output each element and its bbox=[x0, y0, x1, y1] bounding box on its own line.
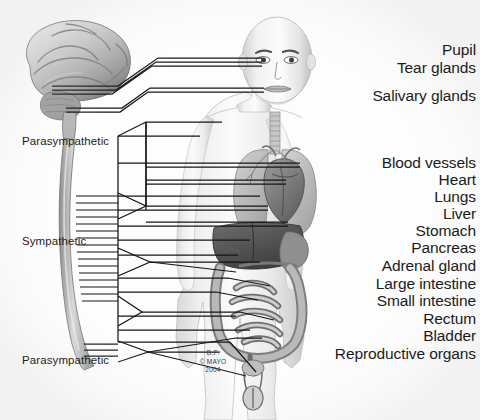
division-label-parasympathetic-cranial: Parasympathetic bbox=[22, 136, 109, 148]
organ-label-bladder: Bladder bbox=[423, 328, 476, 344]
division-label-sympathetic: Sympathetic bbox=[22, 236, 86, 248]
organ-label-heart: Heart bbox=[439, 172, 476, 188]
division-label-parasympathetic-sacral: Parasympathetic bbox=[22, 355, 109, 367]
organ-label-lungs: Lungs bbox=[434, 189, 476, 205]
organ-label-pupil: Pupil bbox=[442, 42, 476, 58]
organ-label-stomach: Stomach bbox=[416, 223, 476, 239]
credit-year: 2004 bbox=[190, 366, 236, 375]
credit-copyright: © MAYO bbox=[190, 358, 236, 367]
organ-label-rectum: Rectum bbox=[423, 311, 476, 327]
organ-label-blood-vessels: Blood vessels bbox=[382, 155, 476, 171]
organ-label-salivary-glands: Salivary glands bbox=[372, 88, 476, 104]
organ-label-adrenal-gland: Adrenal gland bbox=[382, 258, 476, 274]
organ-label-pancreas: Pancreas bbox=[411, 240, 476, 256]
credit-artist: D.F. bbox=[190, 349, 236, 358]
organ-label-reproductive-organs: Reproductive organs bbox=[335, 346, 476, 362]
anatomy-diagram: Parasympathetic Sympathetic Parasympathe… bbox=[0, 0, 480, 420]
organ-label-liver: Liver bbox=[443, 206, 476, 222]
artist-credit: D.F. © MAYO 2004 bbox=[190, 349, 236, 375]
organ-label-small-intestine: Small intestine bbox=[377, 293, 476, 309]
organ-label-large-intestine: Large intestine bbox=[376, 276, 476, 292]
organ-label-tear-glands: Tear glands bbox=[397, 60, 476, 76]
